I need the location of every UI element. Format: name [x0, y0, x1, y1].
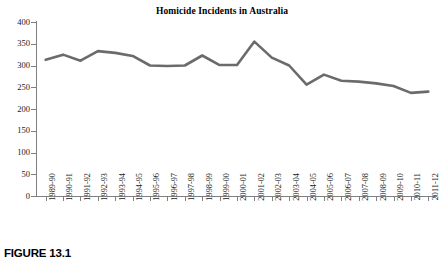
y-axis-tick [31, 66, 36, 67]
y-axis-tick [31, 196, 36, 197]
figure-container: Homicide Incidents in Australia 05010015… [0, 0, 444, 265]
y-axis-tick [31, 174, 36, 175]
y-axis-tick [31, 153, 36, 154]
y-axis-tick [31, 44, 36, 45]
figure-caption: FIGURE 13.1 [4, 247, 71, 259]
y-axis-tick [31, 109, 36, 110]
series-polyline [46, 42, 429, 93]
y-axis-tick [31, 87, 36, 88]
y-axis-tick [31, 22, 36, 23]
y-axis-tick [31, 131, 36, 132]
homicide-incidents-line-series [0, 0, 444, 265]
